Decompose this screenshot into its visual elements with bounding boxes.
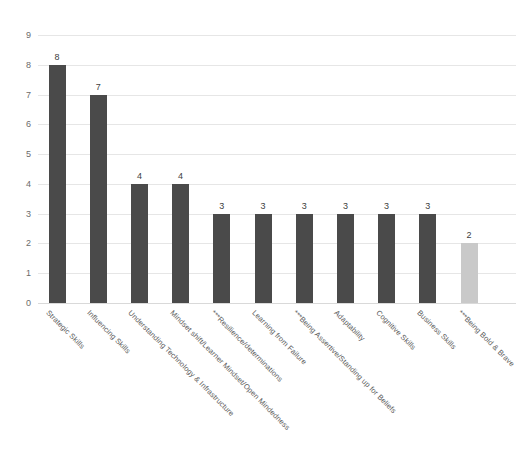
y-axis-tick-label: 2 <box>26 239 31 248</box>
x-axis-label: Adaptability <box>333 309 367 343</box>
bar-value-label: 4 <box>137 172 142 181</box>
y-axis-tick-label: 9 <box>26 31 31 40</box>
gridline <box>38 65 516 66</box>
bar-value-label: 8 <box>54 53 59 62</box>
bar-value-label: 4 <box>178 172 183 181</box>
bar[interactable]: 8 <box>49 65 66 303</box>
x-axis-label: ***Resilience/determinations <box>209 309 283 383</box>
gridline <box>38 214 516 215</box>
bar-value-label: 3 <box>384 202 389 211</box>
bar[interactable]: 3 <box>255 214 272 303</box>
bar[interactable]: 3 <box>378 214 395 303</box>
bar[interactable]: 3 <box>213 214 230 303</box>
bar-value-label: 3 <box>343 202 348 211</box>
y-axis-tick-label: 0 <box>26 299 31 308</box>
bar[interactable]: 3 <box>419 214 436 303</box>
x-axis-label: Influencing Skills <box>86 309 132 355</box>
x-axis-label: Strategic Skills <box>45 309 86 350</box>
bar[interactable]: 3 <box>337 214 354 303</box>
bar[interactable]: 3 <box>296 214 313 303</box>
x-axis-label: Cognitive Skills <box>374 309 416 351</box>
bar-chart: 012345678987443333332 Strategic SkillsIn… <box>0 0 523 469</box>
y-axis-tick-label: 8 <box>26 60 31 69</box>
gridline <box>38 154 516 155</box>
bar-value-label: 7 <box>96 83 101 92</box>
bar[interactable]: 4 <box>172 184 189 303</box>
gridline <box>38 273 516 274</box>
plot-area: 012345678987443333332 <box>38 35 516 303</box>
x-axis-label: ***Being Bold & Brave <box>457 309 516 368</box>
bar[interactable]: 7 <box>90 95 107 303</box>
bar-value-label: 3 <box>302 202 307 211</box>
bar-value-label: 2 <box>466 231 471 240</box>
x-axis-category-labels: Strategic SkillsInfluencing SkillsUnders… <box>38 303 516 463</box>
y-axis-tick-label: 1 <box>26 269 31 278</box>
y-axis-tick-label: 6 <box>26 120 31 129</box>
gridline <box>38 95 516 96</box>
y-axis-tick-label: 7 <box>26 90 31 99</box>
bar[interactable]: 2 <box>461 243 478 303</box>
bar-value-label: 3 <box>260 202 265 211</box>
bar-value-label: 3 <box>219 202 224 211</box>
bar-value-label: 3 <box>425 202 430 211</box>
gridline <box>38 243 516 244</box>
gridline <box>38 184 516 185</box>
gridline <box>38 35 516 36</box>
bar[interactable]: 4 <box>131 184 148 303</box>
gridline <box>38 124 516 125</box>
y-axis-tick-label: 3 <box>26 209 31 218</box>
x-axis-label: Business Skills <box>415 309 457 351</box>
y-axis-tick-label: 5 <box>26 150 31 159</box>
y-axis-tick-label: 4 <box>26 179 31 188</box>
